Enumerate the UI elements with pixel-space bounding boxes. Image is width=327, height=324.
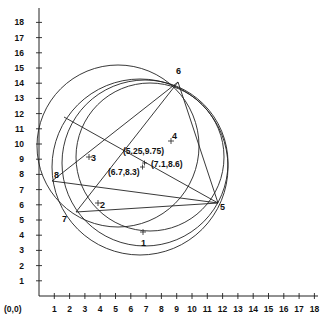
y-tick-label: 2 [19,261,24,271]
x-tick-label: 17 [294,304,304,314]
y-tick-label: 10 [15,139,25,149]
point-label-2: 2 [100,200,105,210]
x-tick-label: 4 [98,304,103,314]
y-tick-label: 6 [19,200,24,210]
y-tick-label: 11 [15,124,24,134]
x-tick-label: 13 [233,304,243,314]
point-label-1: 1 [141,238,146,248]
geometry-diagram: 123456789101112131415161718 123456789101… [0,0,327,324]
x-tick-label: 6 [128,304,133,314]
y-tick-label: 18 [15,17,25,27]
x-tick-label: 9 [174,304,179,314]
y-tick-label: 17 [15,33,25,43]
y-tick-label: 1 [19,276,24,286]
y-tick-label: 3 [19,245,24,255]
center-label-6.7-8.3: (6.7,8.3) [108,167,140,177]
x-tick-label: 2 [67,304,72,314]
y-tick-label: 12 [15,109,25,119]
circles [37,65,228,255]
x-tick-label: 1 [52,304,57,314]
marker-1 [140,229,146,235]
point-label-7: 7 [62,214,67,224]
x-tick-label: 14 [248,304,258,314]
x-tick-label: 3 [83,304,88,314]
y-tick-label: 15 [15,63,25,73]
x-tick-label: 10 [187,304,197,314]
y-tick-label: 5 [19,215,24,225]
point-label-5: 5 [220,202,225,212]
point-label-6: 6 [176,66,181,76]
x-tick-label: 18 [310,304,320,314]
axes [39,8,318,296]
segment-7-5 [76,203,218,212]
y-axis-ticks: 123456789101112131415161718 [15,17,42,285]
y-tick-label: 7 [19,185,24,195]
x-tick-label: 8 [159,304,164,314]
x-tick-label: 15 [264,304,274,314]
circle-center-5.25-9.75 [37,65,199,227]
segment-diagonal [64,117,218,203]
point-label-3: 3 [91,153,96,163]
point-label-4: 4 [172,131,177,141]
circle-inner [76,83,224,231]
segment-8-5 [52,181,218,203]
center-label-5.25-9.75: (5.25,9.75) [123,146,164,156]
point-label-8: 8 [54,170,59,180]
x-tick-label: 16 [279,304,289,314]
y-tick-label: 9 [19,154,24,164]
y-tick-label: 14 [15,78,25,88]
x-tick-label: 11 [203,304,212,314]
y-tick-label: 8 [19,169,24,179]
y-tick-label: 16 [15,48,25,58]
x-tick-label: 12 [218,304,228,314]
x-tick-label: 7 [144,304,149,314]
y-tick-label: 13 [15,93,25,103]
center-label-7.1-8.6: (7.1,8.6) [151,159,183,169]
origin-label: (0,0) [4,304,22,314]
x-tick-label: 5 [113,304,118,314]
y-tick-label: 4 [19,230,24,240]
